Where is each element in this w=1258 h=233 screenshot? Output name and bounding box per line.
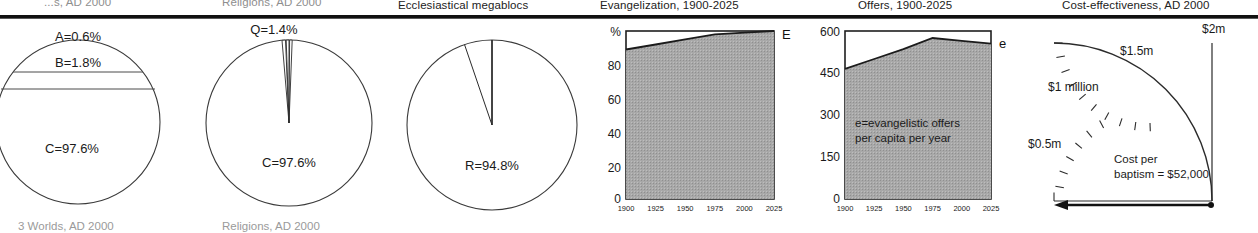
- gauge-cost-effectiveness: $0.5m $1 million $1.5m $2m Cost per bapt…: [1026, 15, 1258, 218]
- xtick-1950: 1950: [895, 204, 912, 213]
- series-label-E: E: [782, 27, 791, 42]
- xtick-2000: 2000: [953, 204, 970, 213]
- top-caption-megablocs: Ecclesiastical megablocs: [398, 0, 528, 11]
- xtick-1925: 1925: [866, 204, 883, 213]
- ytick-60: 60: [608, 93, 622, 107]
- gauge-tick-marks-lower: [1054, 121, 1104, 201]
- ytick-40: 40: [608, 127, 622, 141]
- chart-strip: ...s, AD 2000 Religions, AD 2000 Ecclesi…: [0, 0, 1258, 233]
- top-caption-worlds: ...s, AD 2000: [44, 0, 111, 8]
- chart-panel-offers: 600 450 300 150 0 1900 1925 1950 1975 20…: [811, 15, 1026, 218]
- xtick-1975: 1975: [706, 204, 723, 213]
- xtick-1900: 1900: [837, 204, 854, 213]
- pie-label-c: C=97.6%: [45, 141, 99, 156]
- pie-label-q: Q=1.4%: [250, 22, 298, 37]
- ytick-450: 450: [820, 66, 840, 80]
- xtick-2025: 2025: [766, 204, 783, 213]
- ytick-80: 80: [608, 59, 622, 73]
- area-fill: [626, 31, 774, 199]
- ytick-150: 150: [820, 150, 840, 164]
- bottom-caption-religions: Religions, AD 2000: [222, 220, 320, 232]
- xtick-1975: 1975: [924, 204, 941, 213]
- gauge-label-1m: $1 million: [1048, 80, 1099, 94]
- ytick-20: 20: [608, 161, 622, 175]
- area-chart-evangelization: % 80 60 40 20 0 1900 1925 1950 1975 2000…: [596, 15, 811, 218]
- chart-panel-3-worlds: A=0.6% B=1.8% C=97.6%: [0, 15, 196, 218]
- chart-panel-evangelization: % 80 60 40 20 0 1900 1925 1950 1975 2000…: [596, 15, 811, 218]
- bottom-caption-3-worlds: 3 Worlds, AD 2000: [18, 220, 114, 232]
- pie-3-worlds: A=0.6% B=1.8% C=97.6%: [0, 15, 196, 218]
- top-caption-religions: Religions, AD 2000: [222, 0, 322, 8]
- top-caption-evangelization: Evangelization, 1900-2025: [600, 0, 739, 11]
- series-label-e: e: [999, 36, 1006, 51]
- xtick-1925: 1925: [647, 204, 664, 213]
- offers-annotation-line-1: e=evangelistic offers: [855, 117, 960, 129]
- gauge-annotation-line-2: baptism = $52,000: [1114, 168, 1209, 180]
- chart-panel-cost-effectiveness: $0.5m $1 million $1.5m $2m Cost per bapt…: [1026, 15, 1258, 218]
- gauge-pointer-pivot: [1208, 202, 1214, 208]
- chart-panel-religions: Q=1.4% C=97.6%: [196, 15, 386, 218]
- pie-label-b: B=1.8%: [55, 55, 101, 70]
- gauge-label-1-5m: $1.5m: [1120, 44, 1153, 58]
- top-caption-cost-effectiveness: Cost-effectiveness, AD 2000: [1062, 0, 1210, 11]
- pie-religions: Q=1.4% C=97.6%: [196, 15, 386, 218]
- pie-label-a: A=0.6%: [55, 29, 101, 44]
- xtick-2000: 2000: [736, 204, 753, 213]
- ytick-300: 300: [820, 108, 840, 122]
- area-chart-offers: 600 450 300 150 0 1900 1925 1950 1975 20…: [811, 15, 1026, 218]
- gauge-annotation-line-1: Cost per: [1114, 153, 1158, 165]
- xtick-1900: 1900: [618, 204, 635, 213]
- top-caption-offers: Offers, 1900-2025: [858, 0, 952, 11]
- gauge-label-0-5m: $0.5m: [1028, 137, 1061, 151]
- pie-label-r: R=94.8%: [465, 158, 519, 173]
- bottom-caption-row: 3 Worlds, AD 2000 Religions, AD 2000: [0, 218, 1258, 233]
- pie-megablocs: R=94.8%: [386, 15, 596, 218]
- xtick-1950: 1950: [677, 204, 694, 213]
- offers-annotation-line-2: per capita per year: [855, 132, 951, 144]
- ytick-600: 600: [820, 25, 840, 39]
- pie-label-c: C=97.6%: [262, 155, 316, 170]
- chart-panel-megablocs: R=94.8%: [386, 15, 596, 218]
- top-caption-row: ...s, AD 2000 Religions, AD 2000 Ecclesi…: [0, 0, 1258, 15]
- ylabel-percent: %: [610, 25, 621, 39]
- gauge-label-2m: $2m: [1202, 22, 1225, 36]
- xtick-2025: 2025: [983, 204, 1000, 213]
